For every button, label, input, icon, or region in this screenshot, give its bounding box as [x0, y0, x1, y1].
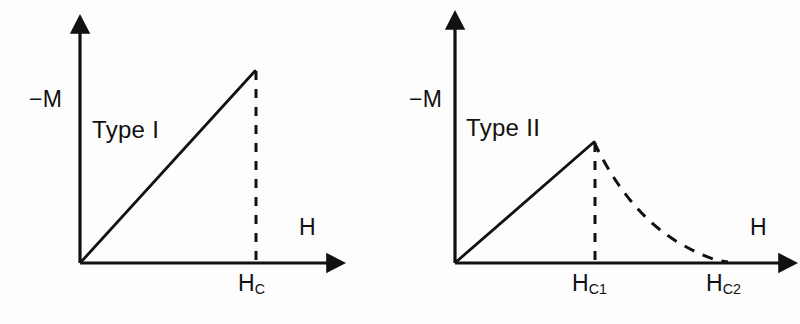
y-axis-label-type-2: −M — [409, 88, 442, 111]
y-axis-label-type-1: −M — [29, 88, 62, 111]
x-tick-label-hc1-type-2: HC1 — [572, 272, 607, 295]
meissner-line-type-1 — [81, 71, 255, 262]
panel-type-2 — [455, 26, 782, 263]
x-axis-label-type-2: H — [750, 216, 767, 239]
plot-vector-layer — [0, 0, 800, 324]
tick-base-hc2: H — [706, 270, 723, 296]
panel-title-type-2: Type II — [466, 116, 540, 140]
tick-base-hc: H — [238, 270, 255, 296]
panel-type-1 — [80, 30, 330, 263]
mixed-state-decay-dashed-type-2 — [594, 142, 728, 262]
x-axis-label-type-1: H — [299, 216, 316, 239]
tick-subscript-hc: C — [255, 281, 266, 297]
x-tick-label-hc2-type-2: HC2 — [706, 272, 741, 295]
tick-base-hc1: H — [572, 270, 589, 296]
x-tick-label-hc-type-1: HC — [238, 272, 265, 295]
panel-title-type-1: Type I — [92, 118, 159, 142]
meissner-line-type-2 — [456, 142, 594, 262]
tick-subscript-hc2: C2 — [723, 281, 742, 297]
superconductor-magnetization-figure: −M Type I H HC −M Type II H HC1 HC2 — [0, 0, 800, 324]
tick-subscript-hc1: C1 — [589, 281, 608, 297]
